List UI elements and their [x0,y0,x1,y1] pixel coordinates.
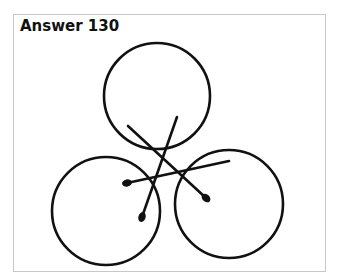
puzzle-diagram [0,0,341,280]
circle-top [104,43,210,149]
circle-bottom-right [175,150,283,258]
match-c [121,161,229,188]
match-head [137,211,147,223]
match-head [121,178,132,187]
